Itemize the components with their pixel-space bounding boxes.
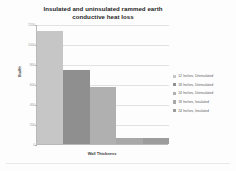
- legend-label: 24 Inches, Uninsulated: [178, 91, 213, 95]
- y-axis-title: Btu/Hr: [18, 66, 22, 77]
- plot-area: 020040060080010001200: [36, 25, 168, 145]
- legend-swatch-icon: [173, 75, 176, 78]
- legend-swatch-icon: [173, 92, 176, 95]
- legend-item: 18 Inches, Uninsulated: [173, 81, 235, 90]
- legend-swatch-icon: [173, 83, 176, 86]
- legend-item: 24 Inches, Insulated: [173, 106, 235, 115]
- legend-swatch-icon: [173, 109, 176, 112]
- y-tick-label: 1200: [21, 23, 35, 27]
- chart-title-line-1: Insulated and uninsulated rammed earth: [18, 5, 188, 13]
- bar-series: [37, 24, 169, 144]
- legend-item: 18 Inches, Insulated: [173, 98, 235, 107]
- legend-label: 18 Inches, Uninsulated: [178, 83, 213, 87]
- y-tick-label: 400: [21, 103, 35, 107]
- y-tick-label: 200: [21, 123, 35, 127]
- y-tick-label: 800: [21, 63, 35, 67]
- chart-title-line-2: conductive heat loss: [18, 13, 188, 21]
- legend-swatch-icon: [173, 100, 176, 103]
- legend-label: 12 Inches, Uninsulated: [178, 74, 213, 78]
- legend-item: 24 Inches, Uninsulated: [173, 89, 235, 98]
- bar: [90, 87, 116, 144]
- chart-title: Insulated and uninsulated rammed earth c…: [18, 5, 188, 22]
- x-axis-title: Wall Thickness: [36, 151, 168, 156]
- bar: [143, 138, 169, 145]
- page-divider: [6, 163, 230, 164]
- y-tick-mark: [35, 145, 37, 146]
- bar: [37, 31, 63, 144]
- y-tick-label: 0: [21, 143, 35, 147]
- y-tick-label: 1000: [21, 43, 35, 47]
- chart-legend: 12 Inches, Uninsulated18 Inches, Uninsul…: [173, 72, 235, 115]
- figure-page: Insulated and uninsulated rammed earth c…: [0, 0, 236, 171]
- legend-label: 18 Inches, Insulated: [178, 100, 209, 104]
- legend-label: 24 Inches, Insulated: [178, 109, 209, 113]
- y-tick-label: 600: [21, 83, 35, 87]
- bar: [63, 70, 89, 144]
- bar: [116, 138, 142, 145]
- legend-item: 12 Inches, Uninsulated: [173, 72, 235, 81]
